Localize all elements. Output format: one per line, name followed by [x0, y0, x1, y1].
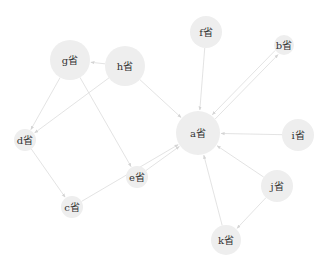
node-label: c省	[64, 201, 80, 213]
node-label: i省	[291, 129, 304, 141]
node-label: h省	[117, 60, 133, 72]
edge-d-to-c	[31, 149, 65, 197]
node-c[interactable]: c省	[61, 196, 83, 218]
edge-g-to-d	[31, 77, 60, 129]
node-e[interactable]: e省	[126, 166, 148, 188]
edge-h-to-a	[140, 80, 181, 118]
edge-b-to-a	[212, 50, 275, 114]
node-f[interactable]: f省	[190, 16, 222, 48]
node-label: a省	[190, 127, 206, 139]
node-label: e省	[129, 171, 145, 183]
node-k[interactable]: k省	[211, 225, 241, 255]
edge-h-to-g	[91, 62, 105, 64]
node-g[interactable]: g省	[50, 40, 90, 80]
node-label: k省	[218, 234, 234, 246]
node-a[interactable]: a省	[176, 111, 220, 155]
node-j[interactable]: j省	[261, 170, 293, 202]
edge-e-to-a	[146, 146, 179, 170]
node-i[interactable]: i省	[282, 119, 314, 151]
edge-g-to-e	[80, 77, 131, 166]
edge-i-to-a	[221, 133, 282, 134]
network-graph: a省b省c省d省e省f省g省h省i省j省k省	[0, 0, 330, 264]
node-label: f省	[199, 26, 213, 38]
node-label: j省	[269, 180, 283, 192]
node-label: d省	[17, 134, 33, 146]
edge-h-to-d	[35, 78, 109, 133]
node-label: g省	[62, 54, 78, 66]
edge-f-to-a	[200, 48, 205, 110]
edge-k-to-a	[204, 155, 222, 225]
node-b[interactable]: b省	[274, 35, 294, 55]
edge-j-to-a	[217, 146, 264, 177]
edge-j-to-k	[237, 198, 266, 229]
nodes-layer: a省b省c省d省e省f省g省h省i省j省k省	[14, 16, 314, 255]
edge-a-to-b	[215, 55, 278, 119]
node-label: b省	[276, 39, 292, 51]
node-h[interactable]: h省	[105, 46, 145, 86]
node-d[interactable]: d省	[14, 129, 36, 151]
